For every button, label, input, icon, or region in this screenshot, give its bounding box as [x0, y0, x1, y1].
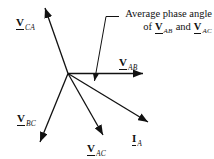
vector-label-i-a: IA: [132, 129, 142, 148]
annotation-leader-line: [95, 17, 120, 82]
phasor-subscript: AC: [202, 27, 212, 35]
phasor-subscript: AB: [164, 27, 173, 35]
phasor-subscript: A: [137, 139, 142, 148]
vector-label-v-ca: VCA: [16, 13, 35, 32]
phasor-subscript: AC: [96, 149, 106, 158]
phasor-symbol: V: [194, 22, 202, 34]
vector-v-ac: [68, 74, 103, 136]
phasor-symbol: V: [155, 22, 163, 34]
phasor-symbol: I: [132, 133, 136, 146]
vector-v-bc: [40, 74, 68, 143]
vector-label-v-ab: VAB: [119, 53, 138, 72]
annotation-average-phase-angle: Average phase angle ofVABandVAC: [125, 8, 212, 37]
vector-label-v-ac: VAC: [87, 139, 106, 158]
phasor-subscript: CA: [25, 23, 35, 32]
vector-label-v-bc: VBC: [17, 109, 36, 128]
phasor-subscript: AB: [128, 63, 138, 72]
annotation-line2: ofVABandVAC: [125, 21, 212, 38]
phasor-symbol: V: [119, 57, 127, 70]
phasor-subscript: BC: [26, 119, 36, 128]
vector-i-a: [68, 74, 148, 123]
phasor-symbol: V: [16, 17, 24, 30]
phasor-symbol: V: [17, 113, 25, 126]
annotation-word-of: of: [143, 21, 152, 32]
phasor-diagram: VCA VAB IA VAC VBC Average phase angle o…: [0, 0, 214, 159]
vector-v-ca: [45, 8, 68, 74]
annotation-word-and: and: [176, 21, 191, 32]
phasor-symbol: V: [87, 143, 95, 156]
annotation-line1: Average phase angle: [125, 8, 212, 21]
